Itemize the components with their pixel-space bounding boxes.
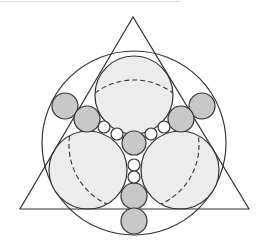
medium-circle-6 (121, 208, 147, 234)
small-circle-3 (145, 128, 157, 140)
small-circle-0 (98, 121, 110, 133)
small-circle-5 (128, 171, 140, 183)
small-circle-1 (111, 128, 123, 140)
medium-circle-2 (74, 106, 100, 132)
small-circle-2 (158, 121, 170, 133)
medium-circle-0 (122, 131, 146, 155)
medium-circle-5 (121, 183, 147, 209)
circle-packing-diagram (0, 0, 265, 248)
medium-circle-4 (168, 106, 194, 132)
small-circle-4 (128, 159, 140, 171)
